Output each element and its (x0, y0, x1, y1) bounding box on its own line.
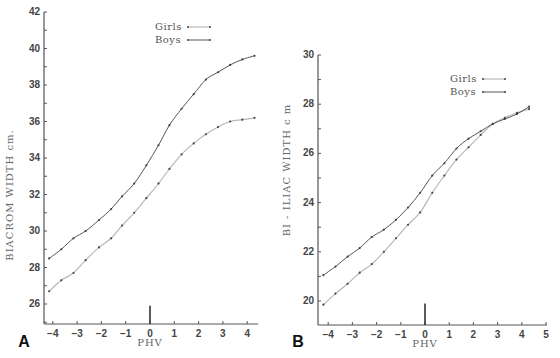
x-tick-label: 1 (172, 328, 178, 339)
series-line-boys (323, 107, 529, 276)
x-tick-label: −4 (47, 328, 59, 339)
data-point-girls (383, 251, 385, 253)
data-point-boys (467, 138, 469, 140)
data-point-girls (371, 263, 373, 265)
data-point-boys (346, 256, 348, 258)
data-point-girls (419, 211, 421, 213)
data-point-boys (322, 274, 324, 276)
data-point-girls (180, 153, 182, 155)
y-tick-label: 24 (303, 197, 315, 208)
x-tick-label: 2 (471, 329, 477, 340)
series-line-girls (323, 109, 529, 305)
data-point-boys (168, 124, 170, 126)
data-point-boys (110, 208, 112, 210)
data-point-girls (322, 304, 324, 306)
data-point-girls (395, 237, 397, 239)
data-point-boys (443, 162, 445, 164)
legend-marker (209, 39, 211, 41)
data-point-girls (157, 182, 159, 184)
y-tick-label: 20 (303, 295, 315, 306)
data-point-boys (253, 55, 255, 57)
x-axis-title: PHV (412, 338, 438, 349)
x-axis-title: PHV (137, 337, 163, 348)
data-point-boys (72, 237, 74, 239)
data-point-girls (359, 272, 361, 274)
y-tick-label: 38 (29, 79, 41, 90)
data-point-boys (193, 93, 195, 95)
data-point-girls (133, 212, 135, 214)
data-point-boys (383, 229, 385, 231)
legend-label-boys: Boys (155, 34, 181, 45)
legend-marker (187, 26, 189, 28)
data-point-girls (346, 283, 348, 285)
data-point-boys (85, 230, 87, 232)
data-point-girls (229, 120, 231, 122)
x-tick-label: 5 (543, 329, 549, 340)
data-point-girls (480, 134, 482, 136)
x-tick-label: −3 (71, 328, 83, 339)
data-point-boys (60, 248, 62, 250)
legend: GirlsBoys (450, 73, 506, 97)
data-point-boys (121, 195, 123, 197)
data-point-girls (121, 224, 123, 226)
x-tick-label: 3 (220, 328, 226, 339)
data-point-boys (229, 64, 231, 66)
data-point-girls (72, 272, 74, 274)
data-point-boys (504, 118, 506, 120)
data-point-girls (253, 117, 255, 119)
data-point-boys (145, 164, 147, 166)
y-tick-label: 28 (303, 98, 315, 109)
data-point-boys (516, 113, 518, 115)
y-tick-label: 32 (29, 189, 41, 200)
x-tick-label: 2 (196, 328, 202, 339)
y-tick-label: 34 (29, 152, 41, 163)
data-point-boys (241, 58, 243, 60)
x-tick-label: −4 (322, 329, 334, 340)
data-point-boys (334, 265, 336, 267)
x-tick-label: 3 (495, 329, 501, 340)
data-point-girls (431, 192, 433, 194)
y-tick-label: 40 (29, 43, 41, 54)
data-point-girls (98, 246, 100, 248)
legend-label-girls: Girls (450, 73, 477, 84)
data-point-boys (528, 106, 530, 108)
data-point-girls (467, 146, 469, 148)
data-point-boys (371, 236, 373, 238)
data-point-girls (168, 168, 170, 170)
data-point-girls (217, 126, 219, 128)
legend: GirlsBoys (155, 21, 211, 45)
data-point-girls (85, 259, 87, 261)
data-point-boys (180, 108, 182, 110)
y-tick-label: 26 (29, 298, 41, 309)
y-axis-title: BIACROM WIDTH cm. (4, 129, 15, 260)
chart-panel-B: 202224262830−4−3−2−1012345PHVBI - ILIAC … (281, 49, 549, 350)
y-tick-label: 42 (29, 6, 41, 17)
series-line-boys (49, 56, 254, 259)
data-point-girls (145, 197, 147, 199)
data-point-girls (334, 293, 336, 295)
x-tick-label: −1 (120, 328, 132, 339)
data-point-girls (455, 158, 457, 160)
legend-marker (209, 26, 211, 28)
legend-marker (482, 91, 484, 93)
legend-marker (187, 39, 189, 41)
panel-letter: B (292, 333, 304, 350)
legend-marker (504, 91, 506, 93)
data-point-girls (241, 119, 243, 121)
data-point-boys (157, 144, 159, 146)
data-point-boys (217, 71, 219, 73)
data-point-boys (431, 174, 433, 176)
x-tick-label: −3 (347, 329, 359, 340)
panel-letter: A (18, 333, 30, 350)
x-tick-label: 4 (519, 329, 525, 340)
data-point-girls (193, 142, 195, 144)
data-point-girls (528, 108, 530, 110)
y-tick-label: 22 (303, 246, 315, 257)
data-point-girls (110, 237, 112, 239)
data-point-boys (407, 206, 409, 208)
x-tick-label: −2 (96, 328, 108, 339)
legend-marker (482, 78, 484, 80)
figure: 262830323436384042−4−3−2−101234PHVBIACRO… (0, 0, 560, 358)
data-point-boys (419, 192, 421, 194)
y-tick-label: 30 (303, 49, 315, 60)
